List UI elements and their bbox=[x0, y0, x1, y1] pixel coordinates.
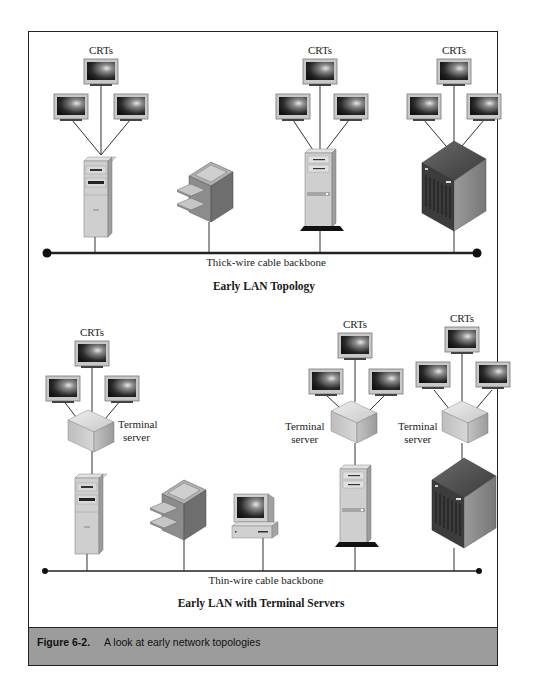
terminal-server-label-line2: server bbox=[398, 433, 438, 446]
crts-label: CRTs bbox=[450, 312, 474, 324]
terminal-server-label-line2: server bbox=[285, 433, 325, 446]
crts-label: CRTs bbox=[80, 326, 104, 338]
terminal-server-label-line1: Terminal bbox=[118, 418, 158, 431]
network-diagrams bbox=[0, 0, 552, 697]
crt-monitor-icon bbox=[467, 94, 501, 121]
tower-server-icon bbox=[75, 474, 107, 554]
crt-monitor-icon bbox=[303, 59, 337, 86]
bottom-diagram bbox=[42, 327, 510, 574]
backbone-terminator-icon bbox=[42, 568, 48, 574]
figure-number: Figure 6-2. bbox=[37, 636, 90, 648]
crt-monitor-icon bbox=[416, 362, 450, 389]
crts-label: CRTs bbox=[442, 44, 466, 56]
figure-6-2: CRTs CRTs CRTs Thick-wire cable backbone… bbox=[0, 0, 552, 697]
mainframe-icon bbox=[422, 141, 486, 231]
crt-monitor-icon bbox=[334, 94, 368, 121]
terminal-server-label: Terminal server bbox=[285, 420, 325, 446]
crt-monitor-icon bbox=[338, 333, 372, 360]
crt-monitor-icon bbox=[54, 94, 88, 121]
crt-monitor-icon bbox=[437, 59, 471, 86]
crt-monitor-icon bbox=[445, 327, 479, 354]
crt-monitor-icon bbox=[369, 369, 403, 396]
crts-label: CRTs bbox=[308, 44, 332, 56]
figure-caption-bar: Figure 6-2. A look at early network topo… bbox=[28, 627, 498, 666]
crt-monitor-icon bbox=[309, 369, 343, 396]
backbone-terminator-icon bbox=[476, 568, 482, 574]
printer-icon bbox=[150, 480, 206, 540]
crt-monitor-icon bbox=[46, 376, 80, 403]
crt-monitor-icon bbox=[114, 94, 148, 121]
crts-label: CRTs bbox=[343, 318, 367, 330]
terminal-server-label: Terminal server bbox=[118, 418, 158, 444]
tower-server-icon bbox=[335, 465, 379, 547]
crt-monitor-icon bbox=[75, 341, 109, 368]
crt-monitor-icon bbox=[407, 94, 441, 121]
diagram-title: Early LAN with Terminal Servers bbox=[178, 597, 345, 609]
printer-icon bbox=[177, 162, 233, 222]
terminal-server-icon bbox=[331, 401, 377, 443]
diagram-title: Early LAN Topology bbox=[213, 280, 315, 292]
tower-server-icon bbox=[300, 149, 344, 231]
backbone-terminator-icon bbox=[473, 249, 482, 258]
mainframe-icon bbox=[432, 458, 496, 548]
crt-monitor-icon bbox=[276, 94, 310, 121]
tower-server-icon bbox=[84, 157, 116, 237]
terminal-server-icon bbox=[442, 401, 488, 443]
terminal-server-label-line1: Terminal bbox=[398, 420, 438, 433]
backbone-label: Thin-wire cable backbone bbox=[209, 574, 324, 586]
crt-monitor-icon bbox=[84, 59, 118, 86]
top-diagram bbox=[43, 59, 502, 258]
terminal-server-label-line1: Terminal bbox=[285, 420, 325, 433]
figure-caption: A look at early network topologies bbox=[104, 636, 260, 648]
crts-label: CRTs bbox=[89, 44, 113, 56]
backbone-terminator-icon bbox=[43, 249, 52, 258]
terminal-server-label-line2: server bbox=[118, 431, 158, 444]
terminal-server-label: Terminal server bbox=[398, 420, 438, 446]
desktop-pc-icon bbox=[232, 494, 278, 538]
crt-monitor-icon bbox=[476, 362, 510, 389]
crt-monitor-icon bbox=[105, 376, 139, 403]
backbone-label: Thick-wire cable backbone bbox=[206, 256, 326, 268]
